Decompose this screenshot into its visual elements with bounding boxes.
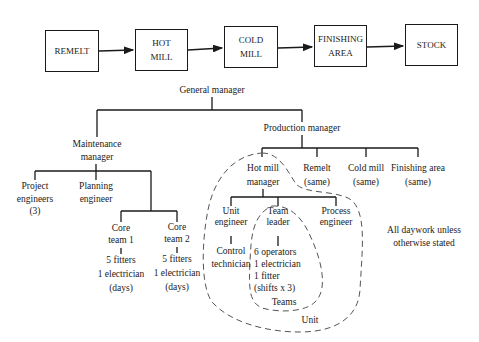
process-box-label: AREA xyxy=(318,46,363,60)
daywork-note: All daywork unless otherwise stated xyxy=(387,224,461,250)
process-box-label: FINISHING xyxy=(318,32,363,46)
node-label: 5 fitters xyxy=(154,253,201,265)
node-label: (same) xyxy=(348,175,384,189)
node-label: (same) xyxy=(391,175,445,189)
arrow-remelt-hotmill xyxy=(99,50,133,51)
node-label: 6 operators xyxy=(254,246,301,258)
node-label: engineer xyxy=(79,193,113,206)
node-finishing-area: Finishing area (same) xyxy=(391,161,445,189)
node-label: Project xyxy=(17,180,53,193)
process-box-stock: STOCK xyxy=(405,24,458,66)
node-control-technician: Control technician xyxy=(211,245,250,271)
node-label: Production manager xyxy=(264,122,341,135)
node-cold-mill: Cold mill (same) xyxy=(348,161,384,189)
teams-group-label: Teams xyxy=(272,296,297,309)
node-maintenance-manager: Maintenance manager xyxy=(72,138,121,164)
node-remelt: Remelt (same) xyxy=(303,161,330,189)
node-label: Hot mill xyxy=(247,161,280,175)
node-label: leader xyxy=(266,217,289,228)
node-label: (3) xyxy=(17,205,53,218)
node-process-engineer: Process engineer xyxy=(320,206,353,228)
node-label: 1 electrician xyxy=(154,267,201,279)
arrow-finishing-stock xyxy=(367,46,403,47)
node-label: technician xyxy=(211,258,250,271)
process-box-label: REMELT xyxy=(54,44,89,58)
node-label: Unit xyxy=(215,206,248,217)
node-label: manager xyxy=(247,175,280,189)
node-label: (same) xyxy=(303,175,330,189)
node-label: team 1 xyxy=(98,234,145,246)
arrow-coldmill-finishing xyxy=(278,47,312,48)
node-label: engineer xyxy=(320,217,353,228)
node-label: 5 fitters xyxy=(98,254,145,266)
node-label: Maintenance xyxy=(72,138,121,151)
node-label: (days) xyxy=(98,282,145,294)
node-label: engineers xyxy=(17,193,53,206)
node-label: Teams xyxy=(272,296,297,309)
node-unit-engineer: Unit engineer xyxy=(215,206,248,228)
node-project-engineers: Project engineers (3) xyxy=(17,180,53,218)
process-box-cold-mill: COLDMILL xyxy=(224,26,278,68)
node-planning-engineer: Planning engineer xyxy=(79,180,113,206)
process-box-label: STOCK xyxy=(417,38,446,52)
node-label: manager xyxy=(72,151,121,164)
node-core-team-1: Core team 1 5 fitters 1 electrician (day… xyxy=(98,222,145,294)
process-box-label: MILL xyxy=(151,50,173,64)
node-label: Unit xyxy=(302,314,319,327)
node-label: Remelt xyxy=(303,161,330,175)
node-team-leader: Team leader xyxy=(266,206,289,228)
unit-group-label: Unit xyxy=(302,314,319,327)
node-hot-mill-manager: Hot mill manager xyxy=(247,161,280,189)
arrow-hotmill-coldmill xyxy=(188,48,222,50)
process-box-finishing-area: FINISHINGAREA xyxy=(314,25,367,67)
process-box-remelt: REMELT xyxy=(45,30,99,72)
node-label: Cold mill xyxy=(348,161,384,175)
node-general-manager: General manager xyxy=(179,84,244,97)
process-box-hot-mill: HOTMILL xyxy=(135,29,188,71)
node-production-manager: Production manager xyxy=(264,122,341,135)
node-label: engineer xyxy=(215,217,248,228)
node-label: (days) xyxy=(154,281,201,293)
node-label: General manager xyxy=(179,84,244,97)
node-label: Control xyxy=(211,245,250,258)
node-team-members: 6 operators 1 electrician 1 fitter (shif… xyxy=(254,246,301,294)
node-label: Team xyxy=(266,206,289,217)
node-label: Planning xyxy=(79,180,113,193)
node-label: (shifts x 3) xyxy=(254,282,301,294)
process-box-label: MILL xyxy=(239,47,264,61)
node-core-team-2: Core team 2 5 fitters 1 electrician (day… xyxy=(154,221,201,293)
node-label: 1 electrician xyxy=(254,258,301,270)
node-label: Core xyxy=(154,221,201,233)
node-label: Core xyxy=(98,222,145,234)
node-label: Finishing area xyxy=(391,161,445,175)
note-text: otherwise stated xyxy=(387,237,461,250)
process-box-label: HOT xyxy=(151,36,173,50)
node-label: 1 electrician xyxy=(98,268,145,280)
process-box-label: COLD xyxy=(239,33,264,47)
note-text: All daywork unless xyxy=(387,224,461,237)
node-label: 1 fitter xyxy=(254,270,301,282)
node-label: Process xyxy=(320,206,353,217)
node-label: team 2 xyxy=(154,233,201,245)
